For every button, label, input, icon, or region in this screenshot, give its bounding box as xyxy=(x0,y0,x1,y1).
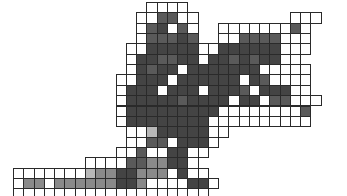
grid-cell xyxy=(208,178,219,189)
grid-cell xyxy=(310,95,321,106)
grid-cell xyxy=(300,43,311,54)
grid-cell xyxy=(300,116,311,127)
pixel-grid-artwork xyxy=(0,0,347,196)
grid-cell xyxy=(310,12,321,23)
grid-cell xyxy=(208,137,219,148)
grid-cell xyxy=(198,147,209,158)
grid-cell xyxy=(198,188,209,196)
grid-cell xyxy=(218,126,229,137)
